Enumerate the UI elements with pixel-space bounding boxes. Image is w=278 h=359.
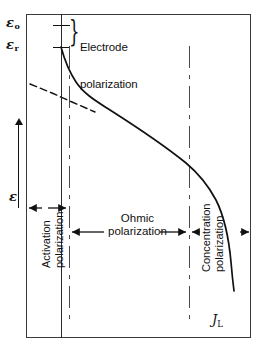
divider-activation-ohmic	[69, 46, 70, 322]
label-activation-polarization-line2: polarization	[53, 212, 65, 268]
y-axis-arrow-icon	[18, 124, 19, 208]
label-concentration-polarization-line2: polarization	[213, 216, 225, 272]
electrode-polarization-line1: Electrode	[80, 41, 138, 53]
label-electrode-polarization: Electrode polarization	[80, 16, 138, 115]
label-ohmic-polarization: Ohmic polarization	[108, 212, 167, 237]
label-concentration-polarization-line1: Concentration	[200, 204, 212, 273]
electrode-polarization-brace: }	[69, 16, 80, 46]
label-activation-polarization-line1: Activation	[40, 220, 52, 268]
label-epsilon-o: εo	[6, 16, 19, 30]
tick-epsilon-o	[53, 25, 70, 26]
plot-frame	[26, 14, 251, 338]
label-y-axis-epsilon: ε	[9, 190, 17, 204]
electrode-polarization-line2: polarization	[80, 78, 138, 90]
ohmic-polarization-line1: Ohmic	[108, 212, 167, 225]
y-axis-line	[61, 14, 62, 338]
label-epsilon-r: εr	[6, 38, 18, 52]
tick-epsilon-r	[53, 47, 70, 48]
divider-ohmic-concentration	[189, 46, 190, 322]
label-x-axis-jl: JL	[212, 313, 223, 327]
ohmic-polarization-line2: polarization	[108, 225, 167, 238]
polarization-figure: εo εr } Electrode polarization ε Activat…	[0, 0, 278, 359]
